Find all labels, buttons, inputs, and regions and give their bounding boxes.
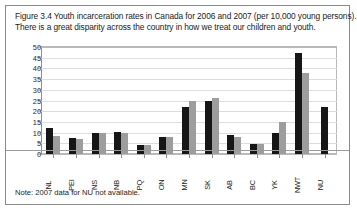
y-axis-tick-label: 10 [19, 128, 41, 137]
x-axis-tick-label: MN [180, 179, 189, 190]
x-label-cell: AB [223, 159, 246, 185]
bar-group [291, 47, 314, 154]
x-axis-tick-label: ON [157, 180, 166, 191]
bar [69, 138, 76, 154]
figure-caption: Figure 3.4 Youth incarceration rates in … [15, 11, 345, 33]
bar-group [65, 47, 88, 154]
caption-line-1: Figure 3.4 Youth incarceration rates in … [15, 11, 345, 22]
x-axis-tick-label: NWT [293, 177, 302, 193]
x-label-cell: BC [245, 159, 268, 185]
caption-line-2: There is a great disparity across the co… [15, 22, 345, 33]
x-label-cell: PEI [65, 159, 88, 185]
figure-note: Note: 2007 data for NU not available. [15, 188, 140, 197]
x-label-cell: NS [87, 159, 110, 185]
bar-group [110, 47, 133, 154]
y-axis-tick-label: 45 [19, 53, 41, 62]
bar-group [223, 47, 246, 154]
x-label-cell: NL [42, 159, 65, 185]
x-axis-tick-label: BC [248, 180, 257, 190]
x-label-cell: SK [200, 159, 223, 185]
x-label-cell: NWT [291, 159, 314, 185]
y-axis-tick-label: 15 [19, 117, 41, 126]
figure-frame: Figure 3.4 Youth incarceration rates in … [5, 5, 350, 205]
x-label-cell: YK [268, 159, 291, 185]
x-axis-tick-label: NU [316, 180, 325, 190]
bar [159, 137, 166, 154]
note-divider [6, 150, 349, 151]
bar [212, 98, 219, 154]
x-axis-labels: NLPEINSNBPQONMNSKABBCYKNWTNU [42, 159, 336, 185]
y-axis-tick-label: 50 [19, 43, 41, 52]
bar-group [200, 47, 223, 154]
y-axis-tick-label: 20 [19, 107, 41, 116]
x-axis-tick-label: YK [270, 180, 279, 189]
bar [321, 107, 328, 154]
bar [302, 73, 309, 154]
bar-group [313, 47, 336, 154]
bar [182, 107, 189, 154]
bar [234, 137, 241, 154]
y-axis-tick-label: 35 [19, 75, 41, 84]
bar-chart: 05101520253035404550 NLPEINSNBPQONMNSKAB… [15, 42, 345, 172]
bar-group [132, 47, 155, 154]
y-axis-tick-label: 5 [19, 139, 41, 148]
bar [166, 137, 173, 154]
x-label-cell: MN [178, 159, 201, 185]
x-label-cell: NB [110, 159, 133, 185]
bar [76, 139, 83, 154]
x-label-cell: PQ [132, 159, 155, 185]
x-label-cell: ON [155, 159, 178, 185]
bar-group [178, 47, 201, 154]
bar [295, 53, 302, 154]
bar-group [42, 47, 65, 154]
bar-series-container [42, 47, 336, 154]
x-label-cell: NU [313, 159, 336, 185]
bar [189, 101, 196, 155]
bar-group [87, 47, 110, 154]
y-axis-tick-label: 25 [19, 96, 41, 105]
bar-group [245, 47, 268, 154]
y-axis-tick-label: 40 [19, 64, 41, 73]
bar [53, 136, 60, 154]
y-axis-tick-label: 30 [19, 85, 41, 94]
bar-group [155, 47, 178, 154]
bar [205, 101, 212, 155]
bar [227, 135, 234, 154]
bar-group [268, 47, 291, 154]
x-axis-tick-label: SK [203, 180, 212, 189]
x-axis-tick-label: AB [225, 180, 234, 189]
